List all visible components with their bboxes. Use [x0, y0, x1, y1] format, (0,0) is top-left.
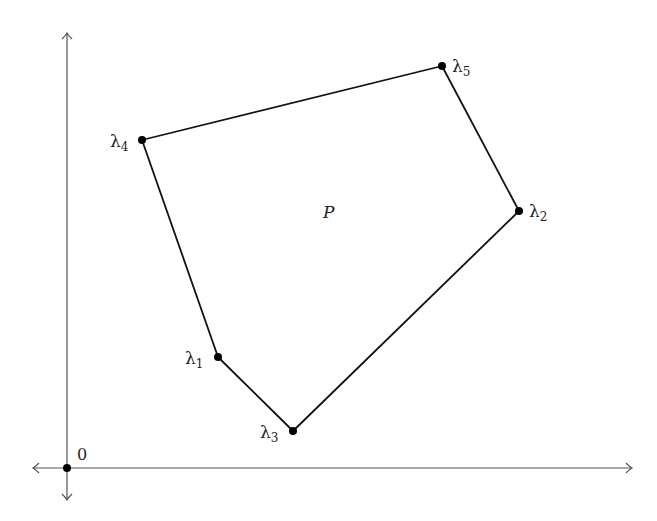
region-label-p: P	[322, 202, 335, 222]
vertex-point	[138, 136, 146, 144]
vertex-label: λ3	[260, 422, 278, 445]
vertex-label: λ1	[185, 348, 203, 371]
origin-point	[63, 464, 71, 472]
vertex-point	[438, 62, 446, 70]
polygon-diagram: 0 P λ1 λ3 λ2 λ5 λ4	[0, 0, 657, 521]
vertex-point	[515, 207, 523, 215]
vertex-point	[214, 353, 222, 361]
vertex-lambda4: λ4	[110, 131, 146, 154]
vertex-lambda2: λ2	[515, 201, 547, 224]
vertex-label: λ5	[452, 56, 470, 79]
origin-label: 0	[77, 445, 87, 464]
vertex-point	[289, 427, 297, 435]
vertex-label: λ2	[529, 201, 547, 224]
vertex-label: λ4	[110, 131, 129, 154]
polygon-p	[142, 66, 519, 431]
